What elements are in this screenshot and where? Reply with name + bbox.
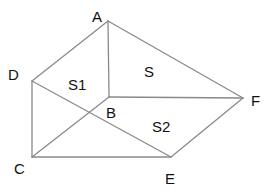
region-labels: S1 S S2 (68, 63, 170, 135)
vertex-label-C: C (14, 160, 25, 177)
segment-AD (32, 21, 108, 81)
region-label-s2: S2 (152, 118, 170, 135)
segment-EF (171, 98, 243, 157)
vertex-label-B: B (106, 104, 116, 121)
segment-BF (109, 97, 243, 98)
vertex-label-A: A (92, 8, 102, 25)
vertex-label-E: E (165, 170, 175, 187)
vertex-label-F: F (251, 92, 260, 109)
edges (32, 21, 243, 157)
segment-AF (108, 21, 243, 98)
region-label-s1: S1 (68, 76, 86, 93)
segment-AB (108, 21, 109, 97)
region-label-s: S (144, 63, 154, 80)
segment-CB (32, 97, 109, 157)
vertex-label-D: D (8, 66, 19, 83)
segment-DE (32, 81, 171, 157)
geometry-diagram: A D B F C E S1 S S2 (0, 0, 269, 194)
